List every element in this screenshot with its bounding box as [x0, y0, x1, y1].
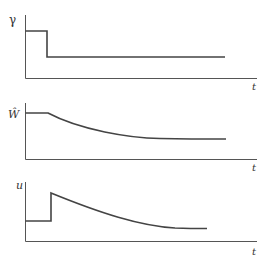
y-axis-label: γ	[9, 13, 16, 27]
diagram: γ t Ŵ t u t	[0, 0, 271, 262]
x-axis-label: t	[252, 162, 257, 173]
w-hat-panel: Ŵ t	[8, 103, 257, 173]
gamma-panel: γ t	[9, 13, 257, 92]
w-hat-curve	[26, 113, 227, 139]
y-axis-label: u	[16, 179, 23, 192]
gamma-curve	[26, 31, 226, 57]
y-axis-label: Ŵ	[8, 107, 21, 121]
x-axis-label: t	[252, 81, 257, 92]
u-panel: u t	[16, 179, 257, 257]
x-axis-label: t	[252, 246, 257, 257]
u-curve	[26, 193, 208, 229]
